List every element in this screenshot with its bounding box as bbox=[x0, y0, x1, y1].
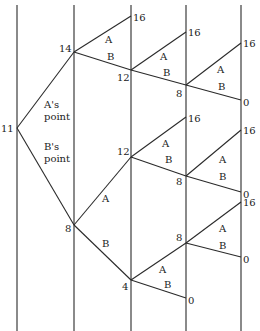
tree-edge bbox=[186, 176, 241, 192]
tree-edge bbox=[131, 70, 186, 85]
node-label: 16 bbox=[188, 27, 201, 38]
tree-edge bbox=[131, 157, 186, 176]
tree-edge bbox=[186, 202, 241, 243]
a-point-label-line2: point bbox=[44, 111, 70, 122]
branch-label-a: A bbox=[159, 264, 166, 275]
branch-label-a: A bbox=[217, 64, 224, 75]
tree-edge bbox=[186, 243, 241, 257]
tree-edge bbox=[74, 52, 131, 70]
tree-edge bbox=[186, 85, 241, 100]
branch-label-b: B bbox=[165, 154, 172, 165]
node-label: 8 bbox=[65, 223, 71, 234]
node-label-root: 11 bbox=[1, 123, 14, 134]
tree-diagram bbox=[0, 0, 260, 331]
tree-edge bbox=[74, 16, 131, 52]
tree-edge bbox=[186, 43, 241, 85]
node-label: 8 bbox=[176, 176, 182, 187]
a-point-label-line1: A's bbox=[44, 99, 59, 110]
branch-label-a: A bbox=[219, 154, 226, 165]
b-point-label-line2: point bbox=[44, 153, 70, 164]
tree-edge bbox=[131, 280, 186, 298]
node-label: 16 bbox=[243, 38, 256, 49]
branch-label-b: B bbox=[219, 240, 226, 251]
node-label: 4 bbox=[122, 281, 128, 292]
tree-edge bbox=[186, 130, 241, 176]
node-label: 16 bbox=[243, 197, 256, 208]
node-label: 0 bbox=[188, 295, 194, 306]
branch-label-a: A bbox=[162, 138, 169, 149]
b-point-label-line1: B's bbox=[44, 141, 59, 152]
node-label: 14 bbox=[59, 43, 72, 54]
branch-label-a: A bbox=[105, 34, 112, 45]
branch-label-b: B bbox=[107, 51, 114, 62]
branch-label-b: B bbox=[164, 279, 171, 290]
node-label: 16 bbox=[133, 12, 146, 23]
node-label: 16 bbox=[188, 113, 201, 124]
node-label: 16 bbox=[243, 125, 256, 136]
node-label: 8 bbox=[176, 88, 182, 99]
node-label: 0 bbox=[243, 97, 249, 108]
branch-label-a: A bbox=[219, 223, 226, 234]
tree-edge bbox=[74, 225, 131, 280]
node-label: 12 bbox=[117, 72, 130, 83]
branch-label-b: B bbox=[102, 238, 109, 249]
tree-edge bbox=[131, 32, 186, 70]
tree-edge bbox=[131, 117, 186, 157]
node-label: 12 bbox=[117, 146, 130, 157]
branch-label-b: B bbox=[219, 171, 226, 182]
tree-edge bbox=[74, 157, 131, 225]
branch-label-b: B bbox=[218, 81, 225, 92]
branch-label-a: A bbox=[102, 193, 109, 204]
vertical-time-lines bbox=[17, 5, 241, 331]
branch-label-b: B bbox=[163, 67, 170, 78]
node-label: 0 bbox=[243, 254, 249, 265]
branch-label-a: A bbox=[160, 51, 167, 62]
node-label: 8 bbox=[176, 232, 182, 243]
